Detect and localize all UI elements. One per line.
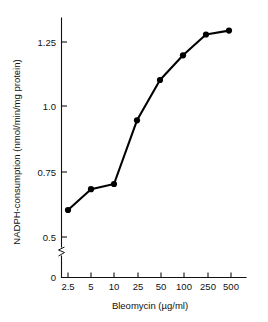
data-point <box>226 28 232 34</box>
y-tick-label-1-0: 1.0 <box>43 101 56 112</box>
y-tick-label-0-5: 0.5 <box>43 232 56 243</box>
x-tick-label-250: 250 <box>200 281 216 292</box>
chart-figure: 1.25 1.0 0.75 0.5 0 2.5 5 10 25 50 100 2… <box>0 0 268 322</box>
series-markers <box>65 28 232 214</box>
x-tick-label-25: 25 <box>133 281 144 292</box>
data-point <box>65 207 71 213</box>
y-axis-title: NADPH-consumption (nmol/min/mg protein) <box>11 59 22 244</box>
x-tick-label-100: 100 <box>176 281 192 292</box>
data-point <box>180 52 186 58</box>
data-point <box>203 31 209 37</box>
data-point <box>111 181 117 187</box>
x-tick-marks <box>68 273 231 278</box>
x-tick-label-2-5: 2.5 <box>61 281 74 292</box>
y-axis-break-icon <box>59 247 65 256</box>
series-line-nadph <box>68 31 229 210</box>
data-point <box>157 77 163 83</box>
y-tick-label-1-25: 1.25 <box>38 37 57 48</box>
data-point <box>134 117 140 123</box>
data-point <box>88 186 94 192</box>
line-chart: 1.25 1.0 0.75 0.5 0 2.5 5 10 25 50 100 2… <box>0 0 268 322</box>
x-axis-title: Bleomycin (µg/ml) <box>112 300 188 311</box>
x-tick-label-500: 500 <box>223 281 239 292</box>
x-tick-label-5: 5 <box>88 281 93 292</box>
y-tick-label-0-75: 0.75 <box>38 167 57 178</box>
x-tick-label-50: 50 <box>156 281 167 292</box>
x-tick-label-10: 10 <box>109 281 120 292</box>
y-tick-label-0: 0 <box>51 272 56 283</box>
